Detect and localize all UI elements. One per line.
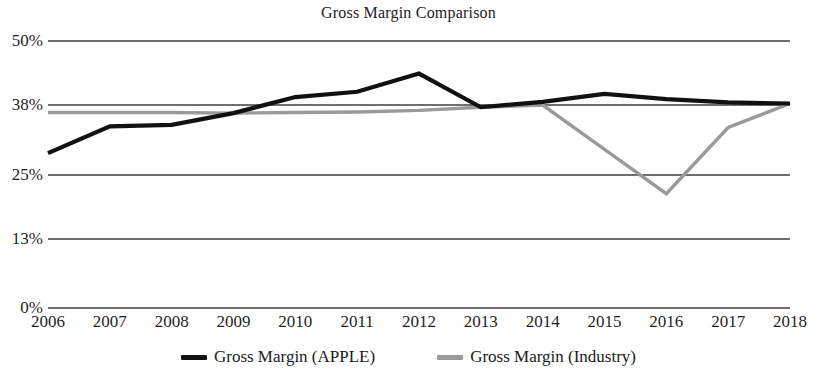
x-axis-tick-label: 2018 (773, 312, 807, 332)
x-axis-tick-label: 2008 (155, 312, 189, 332)
y-axis-tick-label: 50% (2, 31, 48, 51)
x-axis-tick-label: 2009 (217, 312, 251, 332)
x-axis-tick-label: 2007 (93, 312, 127, 332)
x-axis-tick-label: 2016 (649, 312, 683, 332)
legend-item-label: Gross Margin (APPLE) (214, 347, 375, 367)
chart-legend: Gross Margin (APPLE)Gross Margin (Indust… (0, 343, 817, 371)
x-axis: 2006200720082009201020112012201320142015… (48, 312, 790, 338)
legend-item[interactable]: Gross Margin (Industry) (437, 347, 636, 367)
x-axis-tick-label: 2006 (31, 312, 65, 332)
legend-item[interactable]: Gross Margin (APPLE) (181, 347, 375, 367)
legend-line-icon (437, 355, 463, 360)
y-axis: 50%38%25%13%0% (0, 41, 48, 308)
gross-margin-chart: Gross Margin Comparison 50%38%25%13%0% 2… (0, 0, 817, 374)
plot-area (48, 41, 790, 308)
legend-line-icon (181, 355, 207, 360)
y-axis-tick-label: 25% (2, 165, 48, 185)
x-axis-tick-label: 2015 (588, 312, 622, 332)
x-axis-tick-label: 2017 (711, 312, 745, 332)
x-axis-tick-label: 2010 (278, 312, 312, 332)
x-axis-tick-label: 2011 (340, 312, 373, 332)
series-layer (48, 41, 790, 308)
y-axis-tick-label: 13% (2, 229, 48, 249)
x-axis-tick-label: 2014 (526, 312, 560, 332)
series-line-industry (48, 103, 790, 193)
x-axis-tick-label: 2012 (402, 312, 436, 332)
x-axis-tick-label: 2013 (464, 312, 498, 332)
y-axis-tick-label: 38% (2, 95, 48, 115)
legend-item-label: Gross Margin (Industry) (470, 347, 636, 367)
chart-title: Gross Margin Comparison (0, 4, 817, 22)
